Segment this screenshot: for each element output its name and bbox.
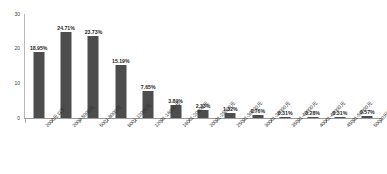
- x-category-label: 16001-20000元: [181, 124, 185, 128]
- y-tick-label: 10: [0, 81, 20, 86]
- x-category-label: 25001-30000元: [235, 124, 239, 128]
- bar-item: 18.95%: [25, 14, 52, 118]
- x-category-label: 40001-45000元: [318, 124, 322, 128]
- bar-value-label: 24.71%: [57, 25, 75, 31]
- bar-rect: [225, 113, 236, 118]
- bar-chart: 0102030 18.95%24.71%23.73%15.19%7.65%3.8…: [0, 0, 387, 174]
- x-category-label: 2000-5000元: [71, 124, 75, 128]
- bar-value-label: 18.95%: [30, 45, 48, 51]
- x-tick-mark: [25, 119, 26, 123]
- x-category-label: 50000元以上: [372, 124, 376, 128]
- x-category-label: 20001-25000元: [208, 124, 212, 128]
- x-category-label: 30001-35000元: [263, 124, 267, 128]
- y-tick-label: 20: [0, 46, 20, 51]
- bar-rect: [362, 116, 373, 118]
- bar-item: 15.19%: [107, 14, 134, 118]
- x-category-label: 5001-8000元: [98, 124, 102, 128]
- bar-rect: [252, 115, 263, 118]
- x-category-label: 8001-12000元: [126, 124, 130, 128]
- x-category-label: 35001-40000元: [290, 124, 294, 128]
- bar-rect: [33, 52, 44, 118]
- bar-rect: [61, 32, 72, 118]
- bar-value-label: 7.65%: [141, 84, 156, 90]
- x-category-label: 12001-16000元: [153, 124, 157, 128]
- bar-item: 24.71%: [52, 14, 79, 118]
- y-tick-label: 0: [0, 116, 20, 121]
- x-category-label: 45001-50000元: [345, 124, 349, 128]
- x-axis-category-labels: 2000元以下2000-5000元5001-8000元8001-12000元12…: [25, 124, 381, 174]
- bar-rect: [334, 117, 345, 118]
- bar-value-label: 23.73%: [85, 29, 103, 35]
- bar-value-label: 15.19%: [112, 58, 130, 64]
- bar-item: 23.73%: [80, 14, 107, 118]
- x-category-label: 2000元以下: [44, 124, 48, 128]
- bar-rect: [307, 117, 318, 118]
- y-tick-label: 30: [0, 12, 20, 17]
- bar-rect: [280, 117, 291, 118]
